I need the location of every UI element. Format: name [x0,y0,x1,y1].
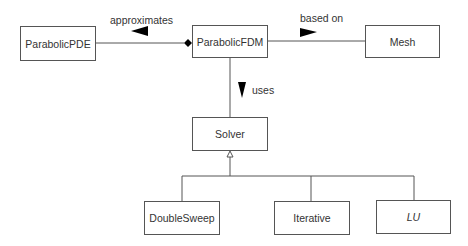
class-double-sweep[interactable]: DoubleSweep [144,201,220,235]
class-name: LU [407,211,420,223]
class-name: ParabolicFDM [197,36,264,48]
class-name: Solver [215,128,245,140]
direction-arrow-down-icon [238,82,246,98]
class-lu[interactable]: LU [376,200,451,234]
direction-arrow-left-icon [131,26,148,36]
generalization-triangle-icon [227,151,233,157]
class-name: Mesh [390,36,416,48]
class-name: ParabolicPDE [25,38,90,50]
class-mesh[interactable]: Mesh [365,25,440,58]
class-name: DoubleSweep [149,212,214,224]
composition-diamond-icon [184,39,192,47]
label-uses: uses [252,84,274,96]
class-iterative[interactable]: Iterative [274,201,350,235]
label-based-on: based on [300,12,343,24]
class-name: Iterative [293,212,330,224]
class-solver[interactable]: Solver [192,117,268,151]
class-parabolic-pde[interactable]: ParabolicPDE [20,26,96,61]
class-parabolic-fdm[interactable]: ParabolicFDM [192,25,268,58]
label-approximates: approximates [110,14,173,26]
direction-arrow-right-icon [300,28,317,37]
